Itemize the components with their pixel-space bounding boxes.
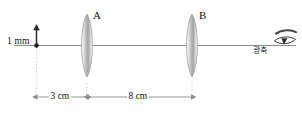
optics-diagram: 1 mm A B 광축 3 cm 8 cm xyxy=(0,0,302,116)
object-arrow xyxy=(33,24,40,48)
dimension-label-3cm: 3 cm xyxy=(49,92,71,102)
optical-axis-label: 광축 xyxy=(253,47,267,55)
object-height-label: 1 mm xyxy=(7,37,30,47)
dimension-label-8cm: 8 cm xyxy=(127,92,149,102)
lens-label-a: A xyxy=(93,10,101,21)
diagram-canvas xyxy=(0,0,302,116)
lens-label-b: B xyxy=(199,10,206,21)
eye-icon xyxy=(275,30,297,44)
lens-b xyxy=(187,14,198,77)
lens-a xyxy=(82,14,93,77)
